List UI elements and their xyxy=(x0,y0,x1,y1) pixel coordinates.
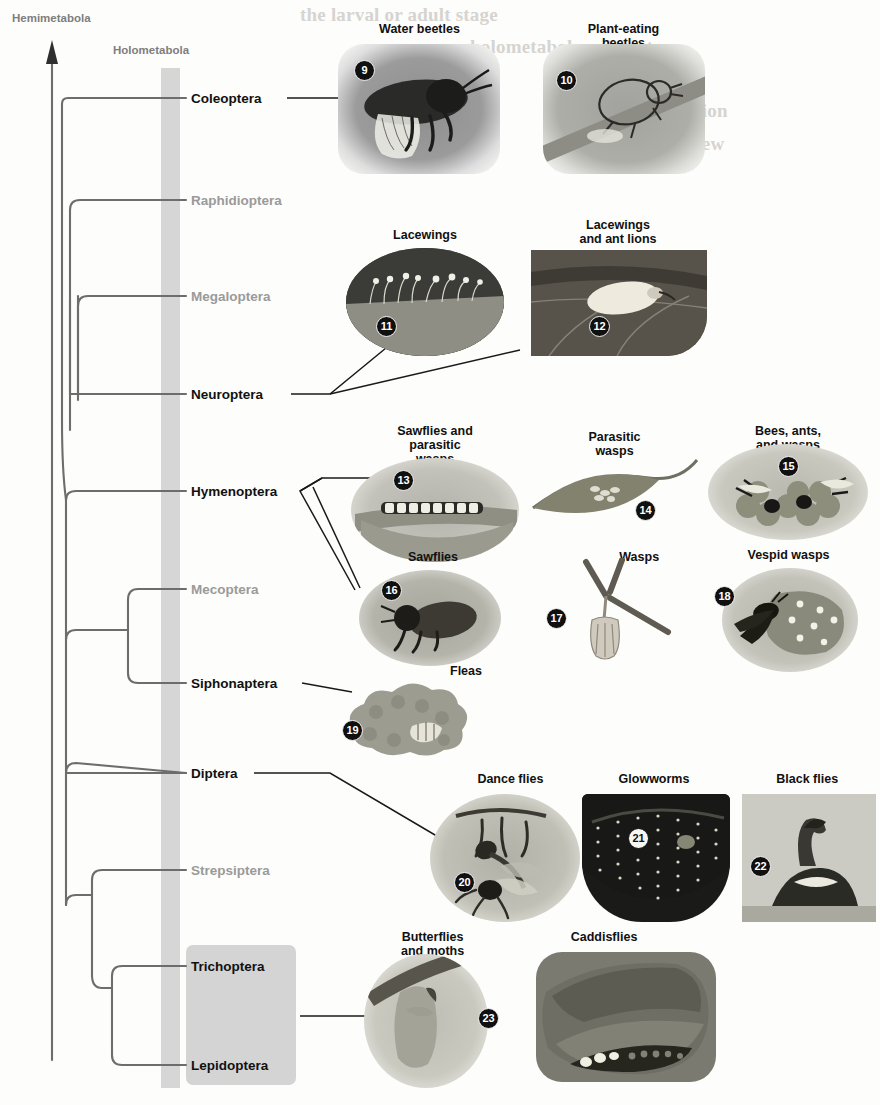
panel-black-flies[interactable]: Black flies 22 xyxy=(740,772,880,922)
taxon-lepidoptera[interactable]: Lepidoptera xyxy=(191,1058,268,1073)
panel-caption: Fleas xyxy=(450,664,482,678)
panel-number: 20 xyxy=(454,872,475,893)
panel-caddisflies[interactable]: Caddisflies 23 xyxy=(520,930,720,1092)
panel-sawflies-parasitic-wasps[interactable]: Sawflies and parasitic wasps 13 xyxy=(345,424,525,564)
taxon-strepsiptera[interactable]: Strepsiptera xyxy=(191,863,270,878)
panel-photo xyxy=(430,794,580,922)
panel-number: 16 xyxy=(381,580,402,601)
panel-lacewings[interactable]: Lacewings 11 xyxy=(340,228,510,356)
panel-photo xyxy=(351,458,519,562)
panel-sawflies[interactable]: Sawflies 16 xyxy=(355,550,505,670)
panel-number: 17 xyxy=(546,608,567,629)
panel-photo xyxy=(364,954,488,1088)
panel-number: 21 xyxy=(628,828,649,849)
panel-number: 13 xyxy=(393,470,414,491)
taxon-coleoptera[interactable]: Coleoptera xyxy=(191,91,262,106)
panel-photo xyxy=(536,952,716,1082)
panel-caption: Glowworms xyxy=(619,772,690,786)
panel-caption: Dance flies xyxy=(477,772,543,786)
panel-caption: Vespid wasps xyxy=(748,548,830,562)
panel-caption: Sawflies xyxy=(408,550,458,564)
panel-dance-flies[interactable]: Dance flies 20 xyxy=(424,772,584,922)
axis-label-hemimetabola: Hemimetabola xyxy=(12,12,91,24)
panel-fleas[interactable]: Fleas 19 xyxy=(318,662,518,772)
panel-number: 23 xyxy=(478,1008,499,1029)
taxon-mecoptera[interactable]: Mecoptera xyxy=(191,582,259,597)
taxon-trichoptera[interactable]: Trichoptera xyxy=(191,959,265,974)
taxon-raphidioptera[interactable]: Raphidioptera xyxy=(191,193,282,208)
panel-photo xyxy=(346,248,504,356)
panel-lacewings-ant-lions[interactable]: Lacewings and ant lions 12 xyxy=(527,218,709,358)
panel-caption: Lacewings and ant lions xyxy=(579,218,656,246)
panel-caption: Lacewings xyxy=(393,228,457,242)
panel-number: 9 xyxy=(354,60,375,81)
panel-number: 15 xyxy=(778,456,799,477)
panel-number: 22 xyxy=(750,856,771,877)
panel-number: 19 xyxy=(342,720,363,741)
panel-photo xyxy=(543,44,705,174)
panel-photo xyxy=(722,568,858,672)
panel-water-beetles[interactable]: Water beetles 9 xyxy=(332,22,507,182)
panel-number: 10 xyxy=(556,70,577,91)
panel-glowworms[interactable]: Glowworms 21 xyxy=(574,772,734,924)
taxon-siphonaptera[interactable]: Siphonaptera xyxy=(191,676,277,691)
panel-number: 11 xyxy=(376,316,397,337)
taxon-neuroptera[interactable]: Neuroptera xyxy=(191,387,263,402)
panel-caption: Water beetles xyxy=(379,22,460,36)
panel-vespid-wasps[interactable]: Vespid wasps 18 xyxy=(706,548,871,676)
panel-parasitic-wasps[interactable]: Parasitic wasps 14 xyxy=(527,430,702,550)
taxon-diptera[interactable]: Diptera xyxy=(191,766,238,781)
panel-number: 18 xyxy=(714,586,735,607)
panel-caption: Caddisflies xyxy=(571,930,638,944)
cladogram: Hemimetabola Holometabola Coleoptera Rap… xyxy=(0,0,340,1105)
axis-label-holometabola: Holometabola xyxy=(113,44,189,56)
panel-bees-ants-wasps[interactable]: Bees, ants, and wasps 1 xyxy=(702,424,874,544)
panel-photo xyxy=(531,250,707,356)
panel-number: 14 xyxy=(635,500,656,521)
panel-wasps[interactable]: Wasps 17 xyxy=(540,548,700,676)
taxon-megaloptera[interactable]: Megaloptera xyxy=(191,289,271,304)
panel-photo xyxy=(582,794,730,922)
panel-photo xyxy=(359,570,501,666)
panel-caption: Black flies xyxy=(776,772,838,786)
panel-number: 12 xyxy=(589,316,610,337)
panel-photo xyxy=(527,452,702,548)
branch-lines xyxy=(0,0,340,1105)
panel-plant-eating-beetles[interactable]: Plant-eating beetles 10 xyxy=(531,22,716,182)
taxon-hymenoptera[interactable]: Hymenoptera xyxy=(191,484,277,499)
